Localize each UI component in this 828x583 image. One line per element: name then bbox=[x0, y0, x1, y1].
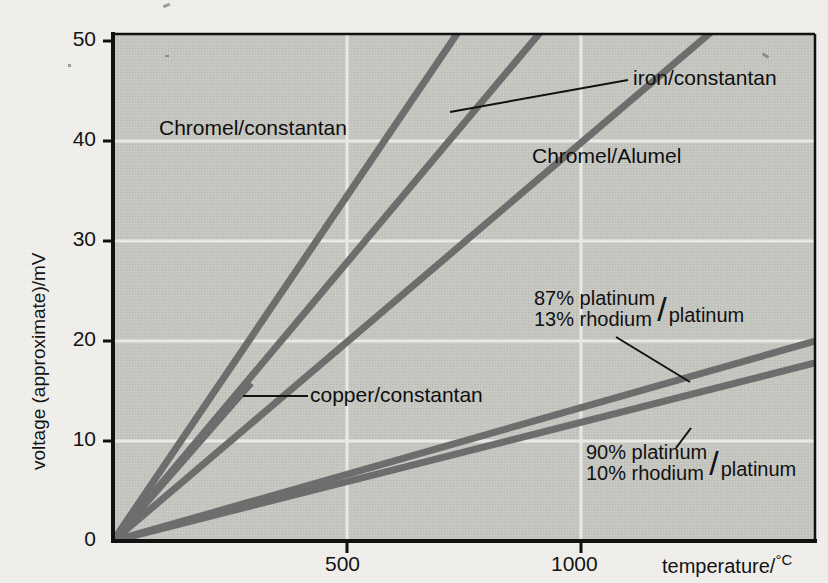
x-axis-title: temperature/°C bbox=[662, 551, 792, 578]
y-tick-label-20: 20 bbox=[50, 327, 96, 351]
y-tick-label-40: 40 bbox=[50, 127, 96, 151]
y-tick-label-10: 10 bbox=[50, 427, 96, 451]
scan-speck bbox=[68, 64, 71, 67]
y-tick-label-0: 0 bbox=[50, 527, 96, 551]
pt90-numerator: 90% platinum bbox=[586, 442, 707, 463]
x-tick-label-500: 500 bbox=[325, 552, 360, 576]
x-tick-label-1000: 1000 bbox=[551, 552, 598, 576]
x-axis-title-text: temperature/ bbox=[662, 555, 775, 577]
annotation-pt87-rh13: 87% platinum 13% rhodium / platinum bbox=[534, 288, 744, 330]
chart-figure: 50 40 30 20 10 0 500 1000 voltage (appro… bbox=[0, 0, 828, 583]
pt90-tail: platinum bbox=[721, 458, 797, 481]
annotation-chromel-constantan: Chromel/constantan bbox=[159, 116, 347, 140]
pt87-numerator: 87% platinum bbox=[534, 288, 655, 309]
y-tick-label-30: 30 bbox=[50, 227, 96, 251]
pt87-denominator: 13% rhodium bbox=[534, 309, 655, 330]
annotation-pt90-rh10: 90% platinum 10% rhodium / platinum bbox=[586, 442, 796, 484]
pt90-denominator: 10% rhodium bbox=[586, 463, 707, 484]
pt87-tail: platinum bbox=[669, 304, 745, 327]
pt90-fraction: 90% platinum 10% rhodium bbox=[586, 442, 707, 484]
annotation-chromel-alumel: Chromel/Alumel bbox=[532, 144, 681, 168]
y-axis-title: voltage (approximate)/mV bbox=[28, 252, 50, 470]
annotation-iron-constantan: iron/constantan bbox=[633, 66, 777, 90]
scan-speck bbox=[165, 55, 169, 57]
pt87-slash-icon: / bbox=[655, 296, 668, 323]
y-tick-label-50: 50 bbox=[50, 27, 96, 51]
pt90-slash-icon: / bbox=[707, 450, 720, 477]
annotation-copper-constantan: copper/constantan bbox=[310, 383, 483, 407]
x-axis-unit: °C bbox=[775, 551, 792, 568]
pt87-fraction: 87% platinum 13% rhodium bbox=[534, 288, 655, 330]
